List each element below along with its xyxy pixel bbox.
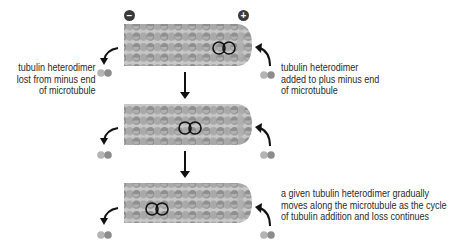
- microtubule-stage-1: [124, 24, 252, 66]
- movement-note-label: a given tubulin heterodimer gradually mo…: [281, 188, 447, 223]
- label-line: a given tubulin heterodimer gradually: [281, 188, 447, 200]
- plus-end-addition-label: tubulin heterodimer added to plus minus …: [281, 62, 379, 97]
- label-line: tubulin heterodimer: [281, 62, 379, 74]
- label-line: of microtubule: [17, 85, 96, 97]
- free-dimer-icon: [97, 69, 112, 77]
- minus-end-loss-label: tubulin heterodimer lost from minus end …: [17, 62, 96, 97]
- down-arrow-icon: [180, 151, 190, 178]
- curved-arrow-left-icon: [100, 48, 118, 65]
- free-dimer-icon: [97, 151, 112, 159]
- curved-arrow-right-icon: [255, 43, 270, 66]
- free-dimer-icon: [260, 151, 275, 159]
- free-dimer-icon: [260, 231, 275, 239]
- label-line: tubulin heterodimer: [17, 62, 96, 74]
- curved-arrow-right-icon: [255, 123, 270, 146]
- microtubule-stage-2: [124, 104, 252, 145]
- down-arrow-icon: [180, 72, 190, 99]
- free-dimer-icon: [97, 231, 112, 239]
- curved-arrow-left-icon: [100, 208, 118, 225]
- label-line: of tubulin addition and loss continues: [281, 211, 447, 223]
- label-line: of microtubule: [281, 85, 379, 97]
- curved-arrow-left-icon: [100, 128, 118, 145]
- curved-arrow-right-icon: [255, 203, 270, 226]
- microtubule-stage-3: [124, 183, 252, 223]
- free-dimer-icon: [260, 71, 275, 79]
